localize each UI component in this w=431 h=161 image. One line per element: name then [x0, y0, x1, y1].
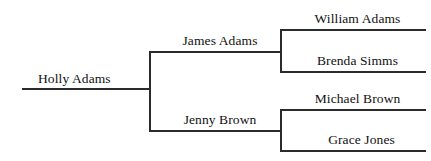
line-spine-parents — [149, 51, 151, 131]
line-branch-maternal-grandmother — [280, 150, 426, 152]
label-grace-jones: Grace Jones — [294, 132, 429, 147]
line-spine-maternal-grandparents — [280, 109, 282, 152]
line-branch-paternal-grandfather — [280, 29, 426, 31]
line-root-holly — [22, 88, 151, 90]
line-branch-maternal-grandfather — [280, 109, 426, 111]
line-branch-paternal-grandmother — [280, 71, 426, 73]
label-james-adams: James Adams — [160, 33, 280, 48]
line-branch-mother — [149, 130, 282, 132]
label-william-adams: William Adams — [290, 11, 425, 26]
label-holly-adams: Holly Adams — [38, 71, 148, 86]
pedigree-chart: Holly Adams James Adams Jenny Brown Will… — [0, 0, 431, 161]
line-branch-father — [149, 51, 282, 53]
label-brenda-simms: Brenda Simms — [290, 53, 425, 68]
label-michael-brown: Michael Brown — [290, 91, 425, 106]
line-spine-paternal-grandparents — [280, 29, 282, 73]
label-jenny-brown: Jenny Brown — [160, 112, 280, 127]
